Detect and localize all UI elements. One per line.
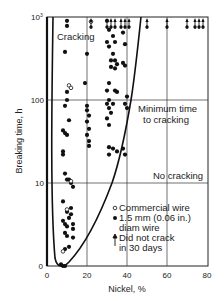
min-time-label-line1: Minimum time (138, 103, 197, 114)
no-cracking-label: No cracking (153, 170, 203, 181)
data-point-filled (107, 145, 111, 149)
y-tick-bottom: 0 (39, 262, 44, 271)
data-point-filled (107, 123, 111, 127)
data-point-filled (105, 116, 109, 120)
data-point-filled (67, 245, 71, 249)
data-point-open (69, 86, 73, 90)
data-point-filled (87, 144, 91, 148)
did-not-crack-arrow-icon (113, 18, 116, 29)
x-axis-title: Nickel, % (108, 284, 146, 294)
data-point-open (61, 250, 65, 254)
did-not-crack-arrow-icon (89, 18, 92, 29)
data-point-filled (123, 102, 127, 106)
data-point-filled (107, 98, 111, 102)
data-point-filled (113, 58, 117, 62)
data-point-filled (71, 185, 75, 189)
data-point-filled (63, 264, 67, 268)
data-point-filled (107, 81, 111, 85)
data-point-filled (69, 212, 73, 216)
data-point-filled (125, 106, 129, 110)
data-point-filled (123, 42, 127, 46)
data-point-filled (109, 111, 113, 115)
data-point-filled (65, 98, 69, 102)
data-point-filled (85, 104, 89, 108)
data-point-filled (85, 108, 89, 112)
data-point-filled (111, 146, 115, 150)
data-point-filled (113, 66, 117, 70)
y-tick-10: 10 (35, 179, 44, 188)
data-point-filled (111, 34, 115, 38)
data-point-filled (121, 30, 125, 34)
legend-did-not-crack-line2: in 30 days (119, 242, 163, 253)
min-time-label-line2: to cracking (143, 114, 189, 125)
data-point-filled (109, 58, 113, 62)
data-point-filled (71, 222, 75, 226)
x-tick-80: 80 (203, 271, 212, 280)
x-tick-20: 20 (83, 271, 92, 280)
y-tick-100: 100 (31, 96, 45, 105)
data-point-filled (107, 44, 111, 48)
data-point-filled (123, 63, 127, 67)
data-point-filled (85, 133, 89, 137)
did-not-crack-arrow-icon (197, 18, 200, 29)
did-not-crack-arrow-icon (201, 18, 204, 29)
data-point-filled (63, 171, 67, 175)
x-tick-0: 0 (45, 271, 50, 280)
data-point-filled (87, 113, 91, 117)
data-point-filled (123, 152, 127, 156)
data-point-filled (83, 81, 87, 85)
data-point-filled (87, 139, 91, 143)
breaking-time-vs-nickel-chart: 103 100 10 0 0 20 40 60 80 Nickel, % Bre… (0, 0, 224, 301)
data-point-filled (113, 40, 117, 44)
data-point-filled (85, 119, 89, 123)
y-tick-1000: 103 (31, 12, 43, 22)
data-point-open (69, 179, 73, 183)
did-not-crack-arrow-icon (145, 18, 148, 29)
data-point-filled (61, 199, 65, 203)
did-not-crack-arrow-icon (185, 18, 188, 29)
legend: Commercial wire 1.5 mm (0.06 in.) diam w… (113, 202, 191, 253)
data-point-filled (105, 102, 109, 106)
data-point-filled (111, 102, 115, 106)
data-point-filled (87, 127, 91, 131)
data-point-filled (125, 94, 129, 98)
did-not-crack-arrow-icon (127, 18, 130, 29)
data-point-filled (65, 19, 69, 23)
data-point-filled (61, 152, 65, 156)
did-not-crack-arrow-icon (193, 18, 196, 29)
data-point-filled (107, 152, 111, 156)
did-not-crack-arrow-icon (165, 18, 168, 29)
data-point-filled (65, 234, 69, 238)
data-point-filled (115, 149, 119, 153)
data-point-filled (65, 90, 69, 94)
data-point-filled (67, 118, 71, 122)
data-point-filled (65, 224, 69, 228)
data-point-filled (65, 24, 69, 28)
data-point-filled (71, 227, 75, 231)
data-point-filled (107, 106, 111, 110)
data-point-open (65, 208, 69, 212)
data-point-filled (111, 52, 115, 56)
did-not-crack-arrow-icon (119, 18, 122, 29)
data-point-filled (105, 88, 109, 92)
did-not-crack-arrow-icon (123, 18, 126, 29)
data-point-filled (121, 146, 125, 150)
data-point-filled (115, 62, 119, 66)
legend-filled-circle-icon (113, 216, 117, 220)
data-point-filled (69, 206, 73, 210)
data-point-filled (63, 50, 67, 54)
data-point-filled (67, 216, 71, 220)
data-point-filled (105, 40, 109, 44)
data-point-filled (63, 104, 67, 108)
legend-up-arrow-icon (113, 234, 117, 246)
data-point-filled (85, 52, 89, 56)
cracking-label: Cracking (57, 31, 95, 42)
x-tick-60: 60 (163, 271, 172, 280)
x-tick-40: 40 (123, 271, 132, 280)
data-point-filled (71, 235, 75, 239)
y-axis-title: Breaking time, h (14, 108, 24, 173)
legend-open-circle-icon (113, 206, 117, 210)
data-point-filled (65, 133, 69, 137)
data-point-filled (115, 90, 119, 94)
data-point-filled (109, 65, 113, 69)
